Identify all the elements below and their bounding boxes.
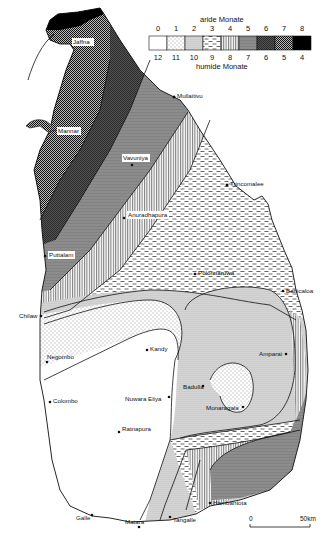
sri-lanka-aridity-map: aride Monate 0 1 2 3 4 5 6 7 8 12 11 10 — [0, 0, 334, 544]
label-galle: Galle — [76, 514, 91, 521]
svg-text:5: 5 — [246, 24, 250, 33]
label-monaragala: Monaragala — [206, 404, 239, 411]
svg-text:5: 5 — [282, 53, 286, 62]
label-negombo: Negombo — [47, 353, 74, 360]
island-zones — [0, 0, 334, 544]
svg-text:8: 8 — [228, 53, 232, 62]
label-matara: Matara — [125, 518, 145, 525]
label-hambantota: Hambantota — [213, 499, 247, 506]
swatch-4 — [221, 36, 239, 50]
svg-text:11: 11 — [172, 53, 180, 62]
svg-text:3: 3 — [210, 24, 214, 33]
svg-text:4: 4 — [228, 24, 232, 33]
label-batticaloa: Batticaloa — [286, 287, 314, 294]
svg-text:12: 12 — [154, 53, 162, 62]
swatch-8 — [293, 36, 311, 50]
scale-end: 50km — [300, 515, 316, 522]
legend-swatches — [149, 36, 311, 50]
svg-text:7: 7 — [246, 53, 250, 62]
label-puttalam: Puttalam — [49, 251, 73, 258]
legend: aride Monate 0 1 2 3 4 5 6 7 8 12 11 10 — [149, 15, 311, 71]
label-chilaw: Chilaw — [19, 312, 38, 319]
label-badulla: Badulla — [183, 383, 204, 390]
swatch-6 — [257, 36, 275, 50]
label-amparai: Amparai — [259, 350, 282, 357]
swatch-2 — [185, 36, 203, 50]
svg-text:9: 9 — [210, 53, 214, 62]
swatch-3 — [203, 36, 221, 50]
svg-text:8: 8 — [300, 24, 304, 33]
label-tangalle: Tangalle — [173, 516, 197, 523]
label-jaffna: Jaffna — [73, 38, 90, 45]
meridian-arc — [28, 34, 54, 80]
label-vavuniya: Vavuniya — [123, 154, 149, 161]
svg-text:7: 7 — [282, 24, 286, 33]
swatch-5 — [239, 36, 257, 50]
label-nuwara-eliya: Nuwara Eliya — [125, 395, 162, 402]
svg-text:4: 4 — [300, 53, 304, 62]
label-mannar: Mannar — [58, 127, 79, 134]
label-mullaitivu: Mullaitivu — [177, 92, 203, 99]
legend-humid-numbers: 12 11 10 9 8 7 6 5 4 — [154, 53, 304, 62]
label-ratnapura: Ratnapura — [122, 425, 151, 432]
swatch-7 — [275, 36, 293, 50]
svg-text:6: 6 — [264, 53, 268, 62]
label-kandy: Kandy — [150, 345, 168, 352]
label-trincomalee: Trincomalee — [230, 180, 264, 187]
svg-text:10: 10 — [190, 53, 198, 62]
scale-start: 0 — [249, 515, 253, 522]
label-anuradhapura: Anuradhapura — [128, 211, 168, 218]
swatch-1 — [167, 36, 185, 50]
svg-text:6: 6 — [264, 24, 268, 33]
svg-text:0: 0 — [156, 24, 160, 33]
svg-text:1: 1 — [174, 24, 178, 33]
label-polonnaruwa: Polonnaruwa — [198, 269, 235, 276]
scale-bar: 0 50km — [249, 515, 316, 527]
svg-text:2: 2 — [192, 24, 196, 33]
legend-title-humid: humide Monate — [196, 62, 248, 71]
legend-title-arid: aride Monate — [200, 15, 244, 24]
label-colombo: Colombo — [53, 397, 78, 404]
swatch-0 — [149, 36, 167, 50]
legend-arid-numbers: 0 1 2 3 4 5 6 7 8 — [156, 24, 304, 33]
